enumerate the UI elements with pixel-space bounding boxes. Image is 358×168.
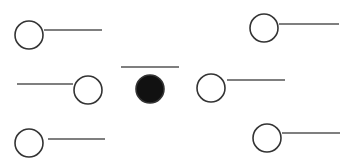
open-circle-icon (197, 74, 225, 102)
open-circle-icon (253, 124, 281, 152)
open-circle-icon (74, 76, 102, 104)
filled-circle-icon (136, 75, 164, 103)
open-circle-icon (15, 21, 43, 49)
diagram-canvas (0, 0, 358, 168)
open-circle-icon (250, 14, 278, 42)
open-circle-icon (15, 129, 43, 157)
